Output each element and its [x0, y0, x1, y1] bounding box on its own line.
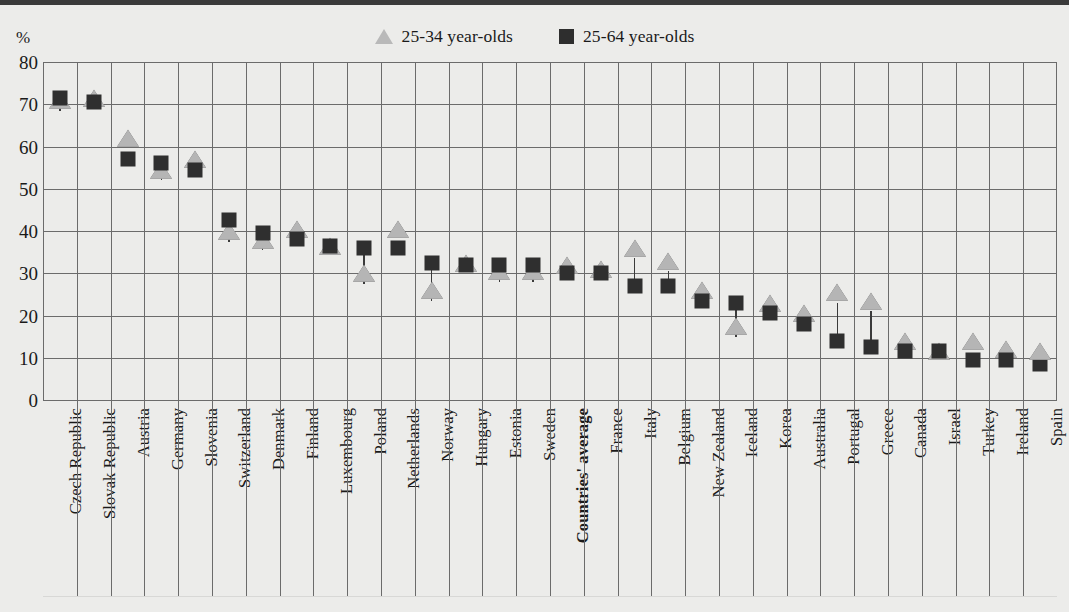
data-point-square[interactable]	[762, 306, 777, 321]
gridline-vertical	[753, 62, 754, 400]
plot-area	[43, 62, 1057, 400]
data-point-square[interactable]	[52, 90, 67, 105]
gridline-vertical	[1023, 62, 1024, 400]
data-point-triangle[interactable]	[725, 318, 747, 335]
data-point-square[interactable]	[424, 255, 439, 270]
data-point-square[interactable]	[593, 266, 608, 281]
data-point-square[interactable]	[357, 240, 372, 255]
data-point-triangle[interactable]	[657, 252, 679, 269]
data-point-square[interactable]	[728, 295, 743, 310]
gridline-vertical-lower	[618, 400, 619, 596]
legend-label-25-64: 25-64 year-olds	[583, 26, 694, 47]
data-point-triangle[interactable]	[117, 130, 139, 147]
data-point-square[interactable]	[221, 213, 236, 228]
gridline-vertical-lower	[685, 400, 686, 596]
y-axis-tick-label: 80	[4, 53, 38, 72]
chart-page: 25-34 year-olds 25-64 year-olds % 010203…	[0, 0, 1069, 612]
data-point-triangle[interactable]	[860, 293, 882, 310]
gridline-vertical-lower	[516, 400, 517, 596]
gridline-vertical-lower	[787, 400, 788, 596]
data-point-square[interactable]	[86, 95, 101, 110]
gridline-vertical-lower	[651, 400, 652, 596]
gridline-vertical	[651, 62, 652, 400]
data-point-square[interactable]	[559, 266, 574, 281]
data-point-triangle[interactable]	[353, 265, 375, 282]
gridline-vertical	[516, 62, 517, 400]
data-point-square[interactable]	[830, 333, 845, 348]
gridline-vertical	[381, 62, 382, 400]
gridline-vertical-lower	[144, 400, 145, 596]
data-point-triangle[interactable]	[826, 284, 848, 301]
gridline-vertical-lower	[77, 400, 78, 596]
gridline-vertical	[415, 62, 416, 400]
gridline-vertical	[820, 62, 821, 400]
legend-item-25-34: 25-34 year-olds	[375, 26, 513, 47]
data-point-square[interactable]	[627, 278, 642, 293]
gridline-vertical	[280, 62, 281, 400]
gridline-vertical-lower	[956, 400, 957, 596]
y-axis: 01020304050607080	[0, 0, 38, 612]
gridline-vertical-lower	[280, 400, 281, 596]
gridline-vertical-lower	[550, 400, 551, 596]
data-point-triangle[interactable]	[421, 282, 443, 299]
data-point-square[interactable]	[695, 293, 710, 308]
data-point-square[interactable]	[323, 238, 338, 253]
gridline-vertical	[449, 62, 450, 400]
data-point-square[interactable]	[864, 340, 879, 355]
data-point-square[interactable]	[492, 257, 507, 272]
gridline-vertical-lower	[381, 400, 382, 596]
data-point-triangle[interactable]	[962, 333, 984, 350]
data-point-square[interactable]	[796, 316, 811, 331]
gridline-vertical-lower	[347, 400, 348, 596]
data-point-square[interactable]	[255, 226, 270, 241]
gridline-vertical	[550, 62, 551, 400]
gridline-vertical	[584, 62, 585, 400]
data-point-triangle[interactable]	[624, 240, 646, 257]
gridline-vertical-lower	[719, 400, 720, 596]
data-point-square[interactable]	[154, 156, 169, 171]
gridline-vertical	[956, 62, 957, 400]
gridline-vertical	[77, 62, 78, 400]
triangle-marker-icon	[375, 29, 393, 44]
data-point-square[interactable]	[390, 240, 405, 255]
data-point-square[interactable]	[188, 162, 203, 177]
gridline-vertical	[618, 62, 619, 400]
gridline-vertical	[347, 62, 348, 400]
data-point-square[interactable]	[999, 352, 1014, 367]
gridline-vertical-lower	[415, 400, 416, 596]
y-axis-tick-label: 30	[4, 264, 38, 283]
y-axis-tick-label: 40	[4, 222, 38, 241]
gridline-vertical-lower	[989, 400, 990, 596]
gridline-vertical-lower	[482, 400, 483, 596]
gridline-vertical	[144, 62, 145, 400]
gridline-vertical	[888, 62, 889, 400]
gridline-vertical-lower	[854, 400, 855, 596]
data-point-square[interactable]	[458, 257, 473, 272]
data-point-square[interactable]	[289, 232, 304, 247]
gridline-vertical-lower	[246, 400, 247, 596]
y-axis-tick-label: 10	[4, 348, 38, 367]
gridline-vertical-lower	[111, 400, 112, 596]
data-point-square[interactable]	[120, 152, 135, 167]
gridline-vertical	[482, 62, 483, 400]
data-point-triangle[interactable]	[1029, 343, 1051, 360]
data-point-triangle[interactable]	[387, 221, 409, 238]
square-marker-icon	[559, 29, 574, 44]
x-axis-labels: Czech RepublicSlovak RepublicAustriaGerm…	[43, 400, 1057, 600]
gridline-vertical-lower	[178, 400, 179, 596]
gridline-vertical-lower	[584, 400, 585, 596]
gridline-vertical	[178, 62, 179, 400]
gridline-vertical	[111, 62, 112, 400]
gridline-vertical-lower	[888, 400, 889, 596]
gridline-vertical-lower	[313, 400, 314, 596]
gridline-vertical-lower	[1023, 400, 1024, 596]
data-point-square[interactable]	[526, 257, 541, 272]
y-axis-tick-label: 50	[4, 179, 38, 198]
gridline-vertical	[922, 62, 923, 400]
data-point-square[interactable]	[897, 344, 912, 359]
data-point-square[interactable]	[965, 352, 980, 367]
gridline-vertical-lower	[753, 400, 754, 596]
gridline-vertical-lower	[922, 400, 923, 596]
data-point-square[interactable]	[661, 278, 676, 293]
data-point-square[interactable]	[931, 344, 946, 359]
